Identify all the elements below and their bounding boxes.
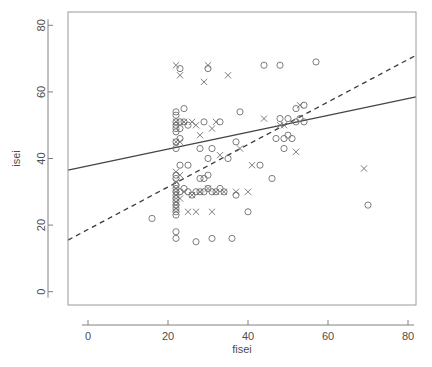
data-point-cross: [173, 199, 179, 205]
data-point-circle: [209, 235, 215, 241]
data-point-circle: [177, 135, 183, 141]
data-point-cross: [173, 62, 179, 68]
data-point-circle: [225, 155, 231, 161]
data-point-cross: [205, 185, 211, 191]
x-tick-label-3: 60: [322, 330, 334, 342]
y-tick-label-4: 80: [35, 19, 47, 31]
data-point-circle: [185, 162, 191, 168]
data-point-circle: [301, 119, 307, 125]
data-point-circle: [173, 229, 179, 235]
data-point-circle: [205, 66, 211, 72]
data-point-circle: [205, 172, 211, 178]
data-point-cross: [177, 195, 183, 201]
y-tick-label-0: 0: [35, 289, 47, 295]
data-point-circle: [261, 62, 267, 68]
data-point-cross: [185, 209, 191, 215]
data-point-cross: [237, 145, 243, 151]
data-point-circle: [285, 115, 291, 121]
y-axis-title: isei: [10, 150, 22, 167]
x-tick-label-0: 0: [85, 330, 91, 342]
data-point-cross: [209, 125, 215, 131]
data-point-cross: [173, 179, 179, 185]
data-point-circle: [245, 209, 251, 215]
data-point-cross: [361, 165, 367, 171]
data-point-cross: [249, 162, 255, 168]
data-point-cross: [221, 189, 227, 195]
data-point-cross: [233, 189, 239, 195]
data-point-cross: [193, 209, 199, 215]
data-point-cross: [181, 189, 187, 195]
data-point-cross: [193, 122, 199, 128]
data-point-cross: [213, 119, 219, 125]
data-point-cross: [181, 119, 187, 125]
data-point-cross: [173, 169, 179, 175]
data-point-circle: [233, 139, 239, 145]
data-point-circle: [149, 215, 155, 221]
data-point-circle: [273, 135, 279, 141]
scatter-plot-figure: 020406080020406080fiseiisei: [0, 0, 432, 367]
data-point-circle: [281, 145, 287, 151]
data-point-circle: [181, 185, 187, 191]
data-point-cross: [197, 189, 203, 195]
data-point-cross: [293, 149, 299, 155]
y-tick-label-1: 20: [35, 219, 47, 231]
data-point-circle: [197, 145, 203, 151]
data-point-cross: [225, 72, 231, 78]
data-point-cross: [245, 189, 251, 195]
y-tick-label-2: 40: [35, 152, 47, 164]
data-point-cross: [261, 115, 267, 121]
data-point-cross: [189, 192, 195, 198]
data-point-circle: [233, 192, 239, 198]
data-point-cross: [189, 119, 195, 125]
data-point-cross: [173, 185, 179, 191]
regression-line-dashed: [68, 55, 416, 240]
data-point-cross: [173, 119, 179, 125]
data-point-circle: [181, 105, 187, 111]
x-tick-label-4: 80: [402, 330, 414, 342]
data-point-circle: [193, 239, 199, 245]
data-point-circle: [293, 105, 299, 111]
data-point-circle: [217, 185, 223, 191]
data-point-circle: [173, 235, 179, 241]
data-point-cross: [205, 62, 211, 68]
data-point-circle: [285, 132, 291, 138]
data-points-group: [149, 59, 371, 245]
data-point-cross: [173, 192, 179, 198]
data-point-cross: [297, 102, 303, 108]
data-point-circle: [281, 135, 287, 141]
regression-line-solid: [68, 97, 416, 170]
data-point-circle: [205, 155, 211, 161]
chart-canvas: 020406080020406080fiseiisei: [0, 0, 432, 367]
data-point-circle: [237, 109, 243, 115]
y-tick-label-3: 60: [35, 86, 47, 98]
data-point-circle: [229, 235, 235, 241]
data-point-cross: [177, 172, 183, 178]
plot-box-border: [68, 12, 416, 305]
x-tick-label-1: 20: [162, 330, 174, 342]
data-point-circle: [177, 125, 183, 131]
data-point-cross: [213, 189, 219, 195]
data-point-circle: [269, 175, 275, 181]
data-point-cross: [217, 152, 223, 158]
data-point-cross: [177, 72, 183, 78]
x-tick-label-2: 40: [242, 330, 254, 342]
data-point-circle: [277, 115, 283, 121]
data-point-circle: [289, 135, 295, 141]
data-point-cross: [173, 205, 179, 211]
data-point-circle: [201, 175, 207, 181]
data-point-circle: [313, 59, 319, 65]
data-point-cross: [209, 209, 215, 215]
data-point-circle: [277, 62, 283, 68]
data-point-circle: [365, 202, 371, 208]
regression-lines-group: [68, 55, 416, 240]
data-point-cross: [201, 79, 207, 85]
axes-group: [48, 12, 416, 325]
data-point-circle: [177, 66, 183, 72]
data-point-circle: [201, 119, 207, 125]
data-point-circle: [257, 162, 263, 168]
data-point-cross: [197, 132, 203, 138]
data-point-circle: [177, 162, 183, 168]
data-point-cross: [177, 139, 183, 145]
data-point-circle: [209, 145, 215, 151]
x-axis-title: fisei: [232, 343, 252, 355]
